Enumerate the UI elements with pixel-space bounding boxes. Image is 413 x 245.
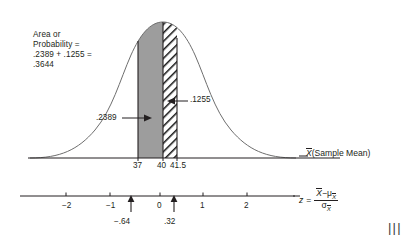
xbar-tick-label-40: 40	[157, 161, 166, 171]
z-formula-denominator: σX	[322, 201, 331, 212]
xbar-tick-label-37: 37	[133, 161, 142, 171]
annotation-line-2: Probability =	[33, 40, 92, 50]
z-tick-label-one: 1	[200, 201, 205, 211]
hatched-right-region	[163, 18, 177, 159]
z-score-formula: z = X−μX σX	[299, 188, 338, 212]
corner-marks: |||	[388, 220, 402, 236]
xbar-axis-title: X(Sample Mean)	[306, 148, 370, 158]
annotation-line-1: Area or	[33, 30, 92, 40]
z-formula-variable: z	[299, 195, 303, 205]
z-mark-label-032: .32	[164, 217, 175, 227]
xbar-tick-label-41-5: 41.5	[170, 161, 186, 171]
z-tick-label-two: 2	[244, 201, 249, 211]
annotation-line-4: .3644	[33, 60, 92, 70]
numerator-mu-subscript: X	[332, 193, 336, 200]
z-formula-equals: =	[306, 195, 311, 205]
z-tick-label-minus1: −1	[106, 201, 115, 211]
shaded-left-region	[138, 18, 163, 159]
area-probability-annotation: Area or Probability = .2389 + .1255 = .3…	[33, 30, 92, 70]
normal-distribution-figure: Area or Probability = .2389 + .1255 = .3…	[0, 0, 413, 245]
denominator-sigma-subscript: X	[327, 205, 331, 212]
annotation-line-3: .2389 + .1255 =	[33, 50, 92, 60]
xbar-axis-title-text: (Sample Mean)	[312, 148, 371, 158]
z-formula-fraction: X−μX σX	[314, 188, 338, 212]
z-tick-label-zero: 0	[157, 201, 162, 211]
z-tick-label-minus2: −2	[62, 201, 71, 211]
callout-right-area: .1255	[190, 95, 211, 105]
z-mark-label-minus064: −.64	[114, 217, 130, 227]
callout-left-area: .2389	[96, 113, 117, 123]
